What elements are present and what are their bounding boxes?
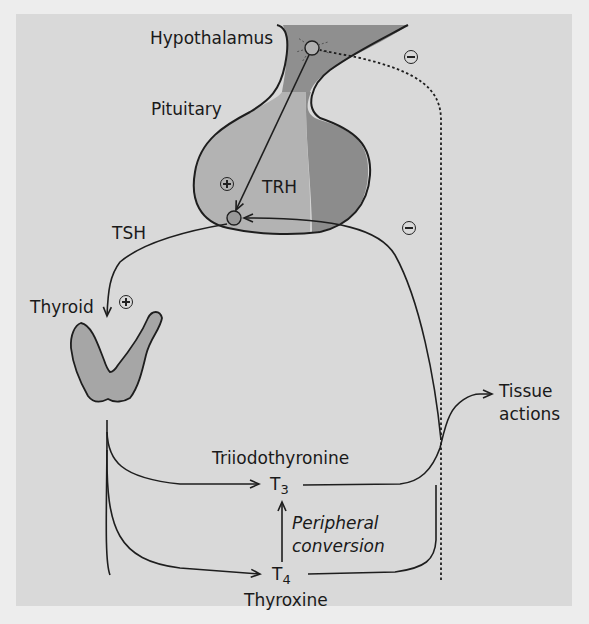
- minus-sign-icon: [404, 50, 418, 64]
- label-trh: TRH: [262, 179, 297, 196]
- label-tissue-actions-1: Tissue: [499, 383, 553, 400]
- label-pituitary: Pituitary: [151, 101, 222, 118]
- label-hypothalamus: Hypothalamus: [150, 30, 273, 47]
- hypothalamic-neuron: [305, 41, 319, 55]
- label-tsh: TSH: [112, 225, 146, 242]
- feedback-to-pituitary-line: [244, 218, 441, 440]
- plus-sign-icon: [220, 177, 234, 191]
- label-t3: T3: [270, 476, 289, 496]
- label-tissue-actions-2: actions: [499, 406, 560, 423]
- t3-to-tissue-line: [303, 394, 492, 485]
- label-thyroid: Thyroid: [30, 299, 94, 316]
- minus-sign-icon: [402, 221, 416, 235]
- label-t4: T4: [272, 566, 291, 586]
- label-peripheral: Peripheral: [292, 515, 379, 532]
- label-triiodothyronine: Triiodothyronine: [212, 450, 349, 467]
- thyroid-to-t4-arrow: [107, 450, 260, 574]
- label-conversion: conversion: [292, 538, 385, 555]
- plus-sign-icon: [119, 295, 133, 309]
- pituitary-cell: [227, 211, 241, 225]
- label-thyroxine: Thyroxine: [244, 592, 328, 609]
